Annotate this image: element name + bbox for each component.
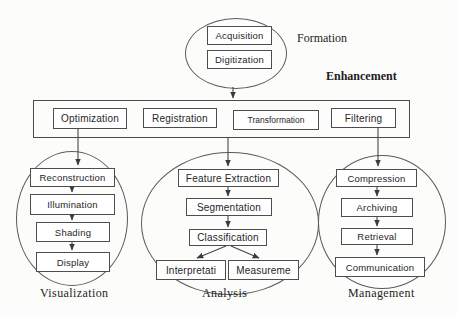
node-feature-extraction: Feature Extraction: [178, 169, 279, 187]
node-archiving: Archiving: [341, 198, 413, 217]
node-digitization: Digitization: [207, 50, 272, 69]
node-shading: Shading: [36, 222, 110, 242]
enhancement-label: Enhancement: [326, 69, 397, 84]
node-reconstruction: Reconstruction: [30, 168, 115, 187]
visualization-label: Visualization: [40, 286, 108, 301]
node-interpretation: Interpretati: [156, 260, 226, 280]
image-processing-diagram: Acquisition Digitization Optimization Re…: [0, 0, 457, 315]
node-illumination: Illumination: [30, 194, 115, 215]
node-display: Display: [36, 252, 110, 272]
node-registration: Registration: [143, 108, 217, 128]
management-label: Management: [348, 286, 415, 301]
node-compression: Compression: [336, 169, 417, 187]
node-filtering: Filtering: [331, 108, 396, 128]
node-measurement: Measureme: [228, 260, 299, 280]
node-transformation: Transformation: [233, 110, 319, 130]
formation-label: Formation: [297, 31, 347, 46]
node-classification: Classification: [189, 229, 267, 246]
node-acquisition: Acquisition: [207, 26, 272, 45]
node-segmentation: Segmentation: [186, 198, 272, 216]
node-retrieval: Retrieval: [341, 228, 413, 245]
node-optimization: Optimization: [53, 108, 127, 129]
analysis-label: Analysis: [202, 286, 247, 301]
node-communication: Communication: [335, 257, 425, 277]
